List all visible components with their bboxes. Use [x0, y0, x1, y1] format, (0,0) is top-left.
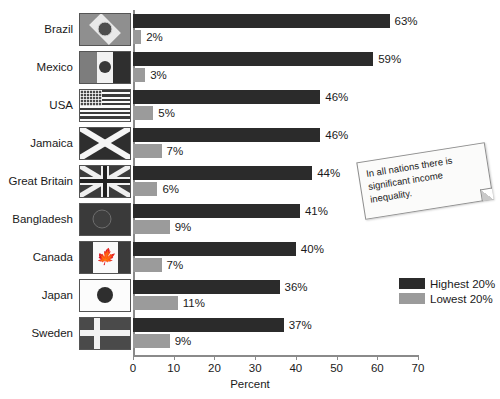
jamaica-flag: [79, 127, 131, 160]
x-axis-label: Percent: [0, 378, 500, 390]
bar-value-highest: 63%: [395, 14, 418, 28]
bar-value-lowest: 9%: [175, 220, 192, 234]
bar-value-highest: 46%: [325, 90, 348, 104]
great-britain-flag: [79, 165, 131, 198]
category-row: Jamaica: [0, 124, 131, 162]
bar-value-highest: 40%: [301, 242, 324, 256]
country-label: Brazil: [44, 23, 73, 35]
category-row: Sweden: [0, 314, 131, 352]
x-tick-mark: [174, 355, 175, 360]
bar-lowest-20[interactable]: [133, 296, 178, 310]
bar-highest-20[interactable]: [133, 128, 320, 142]
mexico-flag: [79, 51, 131, 84]
x-tick-label: 0: [130, 362, 136, 374]
category-row: Brazil: [0, 10, 131, 48]
bar-lowest-20[interactable]: [133, 220, 170, 234]
country-label: Sweden: [31, 327, 73, 339]
bar-lowest-20[interactable]: [133, 68, 145, 82]
brazil-flag: [79, 13, 131, 46]
note-fold-corner: [480, 188, 494, 202]
legend-item-lowest: Lowest 20%: [399, 292, 495, 305]
category-row: Canada🍁: [0, 238, 131, 276]
x-tick-label: 60: [371, 362, 384, 374]
legend-swatch-highest: [399, 278, 425, 289]
bar-value-lowest: 7%: [167, 258, 184, 272]
callout-note-text: In all nations there is significant inco…: [365, 149, 485, 206]
x-tick-mark: [377, 355, 378, 360]
bar-highest-20[interactable]: [133, 242, 296, 256]
bar-lowest-20[interactable]: [133, 30, 141, 44]
bangladesh-flag: [79, 203, 131, 236]
bar-highest-20[interactable]: [133, 318, 284, 332]
bar-value-lowest: 9%: [175, 334, 192, 348]
x-tick-label: 70: [412, 362, 425, 374]
country-label: Canada: [33, 251, 73, 263]
x-tick-label: 20: [208, 362, 221, 374]
x-tick-label: 30: [249, 362, 262, 374]
x-tick-label: 10: [167, 362, 180, 374]
country-label: Bangladesh: [12, 213, 73, 225]
bar-value-highest: 36%: [285, 280, 308, 294]
category-row: Japan: [0, 276, 131, 314]
usa-flag: [79, 89, 131, 122]
bar-lowest-20[interactable]: [133, 334, 170, 348]
bar-highest-20[interactable]: [133, 52, 373, 66]
bar-row: 46%5%: [133, 90, 418, 128]
x-tick-mark: [214, 355, 215, 360]
country-label: Jamaica: [30, 137, 73, 149]
x-tick-label: 40: [289, 362, 302, 374]
bar-value-highest: 41%: [305, 204, 328, 218]
bar-value-lowest: 11%: [183, 296, 205, 310]
bar-lowest-20[interactable]: [133, 258, 162, 272]
bar-lowest-20[interactable]: [133, 182, 157, 196]
bar-row: 63%2%: [133, 14, 418, 52]
legend-label-highest: Highest 20%: [430, 278, 495, 290]
bar-lowest-20[interactable]: [133, 144, 162, 158]
bar-value-lowest: 3%: [150, 68, 167, 82]
x-tick-label: 50: [330, 362, 343, 374]
bar-lowest-20[interactable]: [133, 106, 153, 120]
bar-value-highest: 46%: [325, 128, 348, 142]
x-tick-mark: [133, 355, 134, 360]
bar-highest-20[interactable]: [133, 14, 390, 28]
bar-highest-20[interactable]: [133, 204, 300, 218]
legend-label-lowest: Lowest 20%: [430, 293, 493, 305]
chart-legend: Highest 20% Lowest 20%: [399, 277, 495, 307]
legend-swatch-lowest: [399, 293, 425, 304]
category-row: Bangladesh: [0, 200, 131, 238]
bar-row: 36%11%: [133, 280, 418, 318]
bar-highest-20[interactable]: [133, 166, 312, 180]
x-tick-mark: [255, 355, 256, 360]
bar-value-lowest: 5%: [158, 106, 175, 120]
bar-value-lowest: 7%: [167, 144, 184, 158]
bar-value-lowest: 6%: [162, 182, 179, 196]
bar-row: 59%3%: [133, 52, 418, 90]
bar-highest-20[interactable]: [133, 280, 280, 294]
legend-item-highest: Highest 20%: [399, 277, 495, 290]
x-tick-mark: [296, 355, 297, 360]
x-tick-mark: [418, 355, 419, 360]
country-label: USA: [49, 99, 73, 111]
bar-value-highest: 37%: [289, 318, 312, 332]
x-tick-mark: [337, 355, 338, 360]
country-label: Japan: [42, 289, 73, 301]
category-row: Mexico: [0, 48, 131, 86]
bar-value-highest: 44%: [317, 166, 340, 180]
income-inequality-bar-chart: BrazilMexicoUSAJamaicaGreat BritainBangl…: [0, 0, 500, 399]
country-label: Mexico: [37, 61, 73, 73]
category-row: USA: [0, 86, 131, 124]
bar-highest-20[interactable]: [133, 90, 320, 104]
bar-row: 37%9%: [133, 318, 418, 356]
category-row: Great Britain: [0, 162, 131, 200]
japan-flag: [79, 279, 131, 312]
sweden-flag: [79, 317, 131, 350]
canada-flag: 🍁: [79, 241, 131, 274]
bar-row: 40%7%: [133, 242, 418, 280]
bar-value-lowest: 2%: [146, 30, 163, 44]
bar-value-highest: 59%: [378, 52, 401, 66]
country-label: Great Britain: [8, 175, 73, 187]
